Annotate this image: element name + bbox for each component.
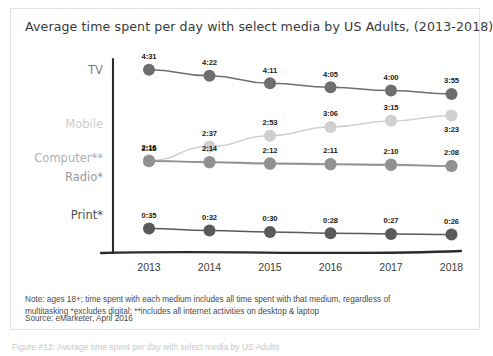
- data-point[interactable]: [143, 223, 155, 235]
- series-line-print: [149, 229, 452, 235]
- figure-caption: Figure #12: Average time spent per day w…: [12, 342, 482, 352]
- x-axis-tick-label: 2018: [440, 261, 463, 273]
- chart-plot-area: 4:314:224:114:054:003:552:162:372:533:06…: [11, 9, 481, 331]
- data-point[interactable]: [204, 156, 216, 168]
- footnote-line-1: Note: ages 18+; time spent with each med…: [25, 295, 390, 304]
- data-point-label: 0:27: [384, 216, 399, 225]
- x-axis-line: [101, 251, 461, 253]
- data-point[interactable]: [446, 88, 458, 100]
- data-point[interactable]: [204, 70, 216, 82]
- data-point[interactable]: [204, 225, 216, 237]
- data-point-label: 4:31: [142, 52, 157, 61]
- data-point[interactable]: [325, 121, 337, 133]
- data-point-label: 3:55: [444, 76, 459, 85]
- data-point[interactable]: [143, 64, 155, 76]
- data-point[interactable]: [385, 85, 397, 97]
- x-axis-tick-label: 2015: [258, 261, 281, 273]
- data-point-label: 0:32: [202, 213, 217, 222]
- data-point[interactable]: [264, 130, 276, 142]
- data-point[interactable]: [264, 77, 276, 89]
- data-point-label: 4:00: [384, 73, 399, 82]
- data-point-label: 2:08: [444, 148, 459, 157]
- data-point-label: 2:14: [202, 144, 217, 153]
- x-axis-tick-label: 2017: [379, 261, 402, 273]
- series-line-radio: [149, 161, 452, 166]
- data-point-label: 4:22: [202, 58, 217, 67]
- data-point-label: 2:12: [263, 146, 278, 155]
- data-point-label: 2:53: [263, 118, 278, 127]
- x-axis-tick-label: 2013: [137, 261, 160, 273]
- data-point[interactable]: [325, 158, 337, 170]
- chart-card: Average time spent per day with select m…: [10, 8, 480, 330]
- series-row-label-computer: Computer**: [11, 151, 103, 165]
- series-row-label-print: Print*: [11, 208, 103, 222]
- data-point[interactable]: [264, 157, 276, 169]
- data-point[interactable]: [446, 229, 458, 241]
- data-point-label: 0:30: [263, 214, 278, 223]
- data-point-label: 0:26: [444, 217, 459, 226]
- data-point[interactable]: [264, 226, 276, 238]
- data-point-label: 3:15: [384, 103, 399, 112]
- data-point-label: 4:05: [323, 70, 338, 79]
- series-line-tv: [149, 70, 452, 94]
- data-point[interactable]: [385, 228, 397, 240]
- series-row-label-mobile: Mobile: [11, 117, 103, 131]
- data-point-label: 3:23: [444, 125, 459, 134]
- data-point[interactable]: [446, 109, 458, 121]
- data-point-label: 4:11: [263, 66, 277, 75]
- data-point-label: 2:37: [202, 129, 217, 138]
- data-point-label: 3:06: [323, 109, 338, 118]
- x-axis-tick-label: 2014: [198, 261, 221, 273]
- series-row-label-radio: Radio*: [11, 170, 103, 184]
- data-point-label: 0:35: [142, 211, 157, 220]
- data-point-label: 0:28: [323, 216, 338, 225]
- x-axis-tick-label: 2016: [319, 261, 342, 273]
- data-point-label: 2:15: [142, 144, 157, 153]
- data-point[interactable]: [385, 159, 397, 171]
- data-point[interactable]: [325, 227, 337, 239]
- series-line-mobile: [149, 116, 452, 161]
- series-row-label-tv: TV: [11, 63, 103, 77]
- data-point-label: 2:10: [384, 147, 399, 156]
- data-point[interactable]: [446, 160, 458, 172]
- chart-source: Source: eMarketer, April 2016: [25, 313, 465, 325]
- data-point[interactable]: [143, 155, 155, 167]
- data-point[interactable]: [325, 81, 337, 93]
- data-point-label: 2:11: [323, 146, 337, 155]
- data-point[interactable]: [385, 115, 397, 127]
